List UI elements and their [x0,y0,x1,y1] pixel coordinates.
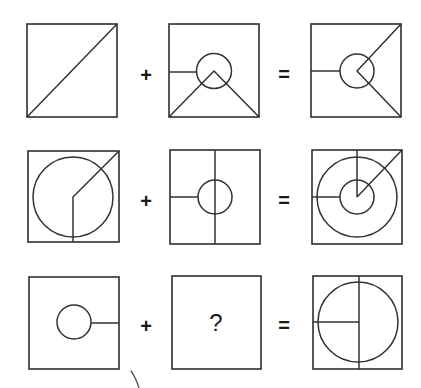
row-3: + ? = [29,276,402,369]
inverted-v-lines [169,71,259,117]
stray-pencil-mark [131,371,139,388]
equals-sign: = [278,314,290,336]
row-2: + = [28,150,402,244]
row3-result [313,276,402,369]
small-circle [57,305,91,339]
equals-sign: = [278,189,290,211]
row1-operand-a [27,24,117,117]
row1-result [311,24,401,117]
right-v-lines [357,24,401,117]
plus-sign: + [140,64,152,86]
row3-operand-a [29,277,119,369]
row3-operand-b-unknown: ? [172,276,261,369]
row1-operand-b [169,24,259,117]
row2-operand-b [170,150,260,244]
question-mark: ? [209,309,222,336]
row2-result [312,150,402,244]
row2-operand-a [28,151,119,242]
plus-sign: + [140,190,152,212]
row-1: + = [27,24,401,117]
figure-puzzle: + = + = [0,0,421,388]
equals-sign: = [278,63,290,85]
diagonal-line [27,24,117,117]
plus-sign: + [140,315,152,337]
